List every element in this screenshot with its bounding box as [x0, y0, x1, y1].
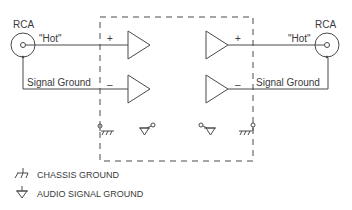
output-minus-sign: –	[235, 79, 241, 90]
left-signal-ground-label: Signal Ground	[27, 77, 91, 88]
legend-chassis-ground-icon	[15, 168, 28, 178]
balanced-audio-diagram: RCA "Hot" Signal Ground + – + – RCA "Hot…	[0, 0, 352, 210]
legend-audio-signal-ground-label: AUDIO SIGNAL GROUND	[37, 189, 144, 199]
legend-audio-signal-ground-icon	[16, 186, 28, 198]
input-plus-sign: +	[107, 33, 113, 44]
right-hot-label: "Hot"	[288, 33, 311, 44]
left-rca-connector	[11, 33, 35, 58]
left-rca-label: RCA	[13, 19, 34, 30]
input-amp-plus	[128, 31, 150, 59]
audio-signal-ground-icon	[199, 123, 216, 135]
right-rca-connector	[315, 33, 339, 58]
input-minus-sign: –	[107, 79, 113, 90]
right-rca-label: RCA	[315, 19, 336, 30]
output-plus-sign: +	[235, 33, 241, 44]
left-hot-label: "Hot"	[39, 33, 62, 44]
input-amp-minus	[128, 75, 150, 103]
output-amp-plus	[206, 31, 228, 59]
output-amp-minus	[206, 75, 228, 103]
right-signal-ground-label: Signal Ground	[256, 77, 320, 88]
audio-signal-ground-icon	[139, 123, 155, 135]
legend-chassis-ground-label: CHASSIS GROUND	[37, 170, 120, 180]
